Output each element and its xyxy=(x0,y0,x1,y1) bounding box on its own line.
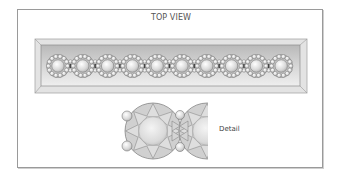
side-stone xyxy=(176,111,185,120)
side-stone xyxy=(176,143,185,152)
bracelet-band xyxy=(35,39,307,93)
bracelet-link xyxy=(270,55,293,78)
side-stone xyxy=(122,111,132,121)
brilliant-stone xyxy=(125,103,181,159)
detail-label: Detail xyxy=(219,125,240,133)
side-stone xyxy=(122,141,132,151)
bracelet-drawing xyxy=(0,0,342,180)
